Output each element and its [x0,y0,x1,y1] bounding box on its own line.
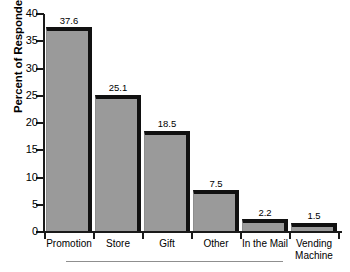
y-tick-label: 20 [12,117,38,127]
bar-other [193,190,239,231]
bar-value-label: 25.1 [95,83,141,93]
bar-chart: Percent of Respondents 0 5 10 15 20 25 3… [0,0,350,272]
y-tick-label: 15 [12,144,38,154]
y-tick-label: 10 [12,172,38,182]
bar-store [95,95,141,231]
bar-value-label: 18.5 [144,119,190,129]
bar-value-label: 1.5 [291,211,337,221]
bar-in-the-mail [242,219,288,231]
y-tick-label: 35 [12,35,38,45]
y-tick-label: 5 [12,199,38,209]
bar-vending-machine [291,223,337,231]
bar-gift [144,131,190,231]
y-tick-label: 25 [12,90,38,100]
bar-value-label: 2.2 [242,208,288,218]
bar-promotion [46,27,92,231]
y-tick-label: 40 [12,8,38,18]
y-tick-label: 30 [12,63,38,73]
bar-value-label: 37.6 [46,16,92,26]
bar-value-label: 7.5 [193,179,239,189]
y-tick-label: 0 [12,226,38,236]
category-group-rule [66,261,283,262]
x-category-label-vending-machine: Vending Machine [285,238,343,261]
